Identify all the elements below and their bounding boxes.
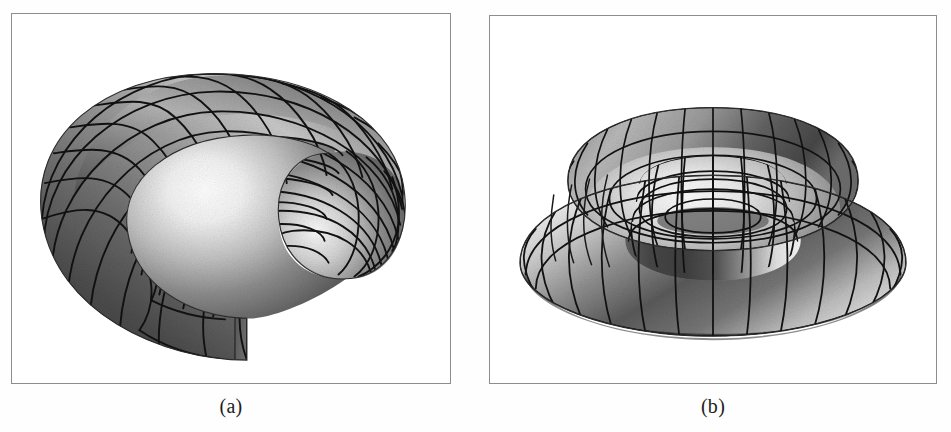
caption-a: (a) [11,395,451,417]
torus-b-surface [520,108,906,343]
torus-a-surface [41,74,410,361]
torus-a-illustration [12,14,450,383]
panel-b [489,15,937,384]
caption-b: (b) [489,395,937,417]
panel-a [11,13,451,384]
torus-b-illustration [490,16,936,383]
figure-container: (a) [0,0,951,432]
